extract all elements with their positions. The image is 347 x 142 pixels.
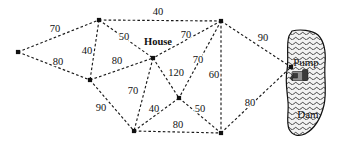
network-graph-svg: 7070808040404040505080807070707060609090… bbox=[0, 0, 347, 142]
graph-node bbox=[219, 131, 223, 135]
graph-node bbox=[177, 96, 181, 100]
edge-weight-label: 70 bbox=[128, 85, 139, 96]
network-diagram-canvas: 7070808040404040505080807070707060609090… bbox=[0, 0, 347, 142]
edge-weight-label: 70 bbox=[181, 29, 192, 40]
graph-node-house bbox=[151, 56, 155, 60]
graph-edge bbox=[99, 20, 221, 21]
graph-node bbox=[97, 18, 101, 22]
edge-weight-label: 80 bbox=[112, 55, 123, 66]
house-label: House bbox=[144, 36, 172, 47]
pump-machine-icon bbox=[290, 70, 308, 82]
dam-outline-shape bbox=[286, 30, 325, 135]
graph-edge bbox=[221, 21, 291, 67]
edge-weight-label: 60 bbox=[209, 69, 220, 80]
edge-weight-label: 120 bbox=[168, 67, 184, 78]
dam-label: Dam bbox=[297, 108, 319, 120]
dam-water-body bbox=[286, 30, 325, 135]
graph-edge bbox=[134, 131, 221, 133]
edge-weight-label: 50 bbox=[119, 31, 130, 42]
edge-weight-label: 70 bbox=[50, 23, 61, 34]
graph-node bbox=[219, 19, 223, 23]
pump-label: Pump bbox=[293, 56, 319, 68]
edge-weight-label: 90 bbox=[258, 32, 269, 43]
edge-weight-label: 80 bbox=[245, 97, 256, 108]
graph-node bbox=[132, 129, 136, 133]
graph-edge bbox=[221, 67, 291, 133]
edge-weight-label: 40 bbox=[153, 6, 164, 17]
edge-weight-label: 80 bbox=[173, 119, 184, 130]
edge-weight-label: 70 bbox=[193, 54, 204, 65]
edge-weight-label: 80 bbox=[53, 56, 64, 67]
graph-node bbox=[16, 50, 20, 54]
edge-weight-label: 90 bbox=[96, 102, 107, 113]
graph-node bbox=[88, 78, 92, 82]
edge-weight-labels-layer: 7070808040404040505080807070707060609090… bbox=[50, 6, 269, 130]
edge-weight-label: 40 bbox=[149, 103, 160, 114]
edge-weight-label: 50 bbox=[195, 103, 206, 114]
edge-weight-label: 40 bbox=[82, 45, 93, 56]
